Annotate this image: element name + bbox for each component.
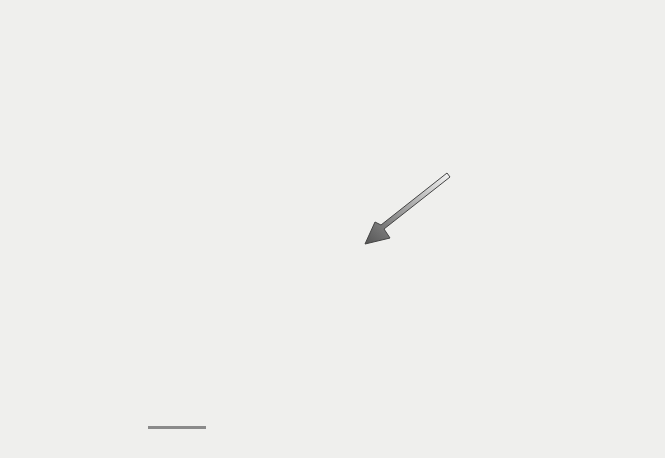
population-pyramid	[0, 0, 665, 458]
arrow-icon	[365, 173, 450, 244]
legend	[148, 426, 216, 429]
legend-line-swatch	[148, 426, 206, 429]
